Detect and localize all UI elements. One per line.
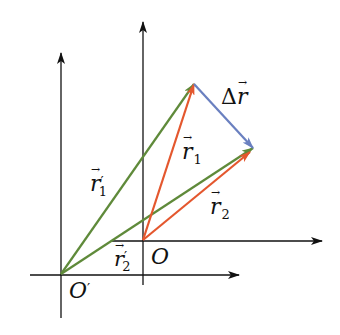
origin-o-prime-label: O′ <box>69 280 90 302</box>
vector-arrow-icon: → <box>211 187 220 198</box>
diagram-canvas <box>0 0 340 335</box>
r1-label: →r1 <box>182 141 202 163</box>
delta-r-label: Δ→r <box>221 86 247 108</box>
vector-arrow-icon: → <box>238 77 247 88</box>
r1-prime-label: →r′1 <box>90 173 107 195</box>
vector-arrow-icon: → <box>115 240 124 251</box>
r1-prime-vector <box>61 84 194 274</box>
r2-label: →r2 <box>210 196 230 218</box>
vector-arrow-icon: → <box>183 132 192 143</box>
relative-motion-diagram: Δ→r →r1 →r2 →r′1 →r′2 O O′ <box>0 0 340 335</box>
delta-symbol: Δ <box>221 84 237 109</box>
origin-o-label: O <box>151 246 169 268</box>
vector-arrow-icon: → <box>91 164 100 175</box>
r2-prime-label: →r′2 <box>114 249 131 270</box>
